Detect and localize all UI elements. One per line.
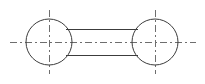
drawing-svg — [0, 0, 205, 84]
technical-drawing-canvas — [0, 0, 205, 84]
